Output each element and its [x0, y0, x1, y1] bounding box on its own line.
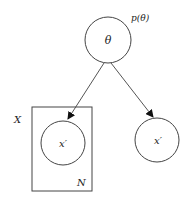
node-x-single-label: x′ [154, 135, 163, 146]
node-x-plate: x′ [41, 121, 85, 165]
graphical-model-diagram: θ p(θ) X N x′ x′ [0, 0, 191, 201]
prior-annotation: p(θ) [131, 13, 150, 23]
plate-outer-label: X [13, 114, 22, 125]
node-theta: θ [85, 17, 131, 63]
edge-theta-to-x-plate [68, 63, 104, 119]
node-x-single: x′ [135, 118, 179, 162]
edge-theta-to-x-single [111, 63, 153, 117]
node-theta-label: θ [105, 34, 112, 47]
node-x-plate-label: x′ [59, 138, 68, 149]
plate-count-label: N [76, 177, 87, 188]
